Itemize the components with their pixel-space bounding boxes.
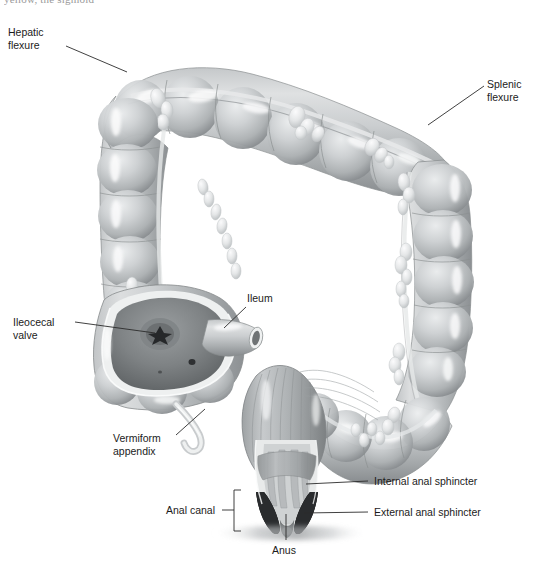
anal-canal <box>255 440 318 538</box>
label-ileum: Ileum <box>247 292 273 305</box>
ground-shadow <box>212 526 368 540</box>
label-vermiform-appendix: Vermiform appendix <box>113 432 161 457</box>
label-external-anal-sphincter: External anal sphincter <box>374 506 481 519</box>
figure-page: yellow, the sigmoid <box>0 0 537 570</box>
label-ileocecal-valve: Ileocecal valve <box>13 316 54 341</box>
label-anus: Anus <box>272 544 296 557</box>
ileum <box>202 319 265 356</box>
label-hepatic-flexure: Hepatic flexure <box>8 26 44 51</box>
label-anal-canal: Anal canal <box>166 504 215 517</box>
label-splenic-flexure: Splenic flexure <box>487 78 521 103</box>
vermiform-appendix <box>176 404 201 452</box>
label-internal-anal-sphincter: Internal anal sphincter <box>374 475 477 488</box>
